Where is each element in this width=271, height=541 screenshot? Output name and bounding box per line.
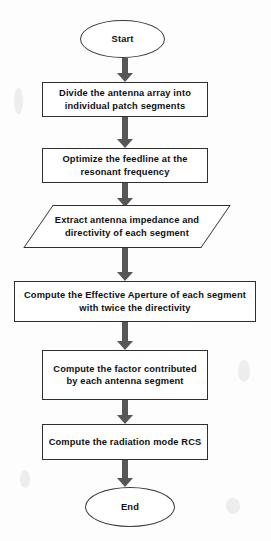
connector-arrowhead <box>117 478 133 487</box>
connector-shaft <box>122 117 128 139</box>
node-radiation-rcs[interactable]: Compute the radiation mode RCS <box>42 424 208 460</box>
scan-speck <box>14 88 23 114</box>
flowchart-canvas: Start Divide the antenna array into indi… <box>0 0 271 541</box>
connector-shaft <box>122 400 128 415</box>
node-divide-array-label: Divide the antenna array into individual… <box>43 87 207 112</box>
connector-optimize-to-extract <box>117 183 133 207</box>
connector-factor-to-rcs <box>117 400 133 424</box>
connector-shaft <box>122 322 128 341</box>
node-end[interactable]: End <box>85 487 175 527</box>
node-start[interactable]: Start <box>80 20 165 58</box>
connector-arrowhead <box>117 415 133 424</box>
connector-shaft <box>122 183 128 198</box>
connector-shaft <box>122 248 128 272</box>
node-end-label: End <box>86 501 174 513</box>
connector-start-to-divide <box>117 58 133 82</box>
connector-aperture-to-factor <box>117 322 133 350</box>
connector-arrowhead <box>117 272 133 281</box>
node-optimize-feedline[interactable]: Optimize the feedline at the resonant fr… <box>42 148 208 183</box>
connector-arrowhead <box>117 341 133 350</box>
connector-extract-to-aperture <box>117 248 133 281</box>
node-divide-array[interactable]: Divide the antenna array into individual… <box>42 82 208 117</box>
node-effective-aperture-label: Compute the Effective Aperture of each s… <box>15 289 255 314</box>
connector-arrowhead <box>117 139 133 148</box>
node-extract-impedance[interactable]: Extract antenna impedance and directivit… <box>38 205 216 248</box>
scan-speck <box>226 498 240 514</box>
connector-arrowhead <box>117 73 133 82</box>
node-optimize-feedline-label: Optimize the feedline at the resonant fr… <box>43 153 207 178</box>
node-compute-factor-label: Compute the factor contributed by each a… <box>43 363 207 388</box>
node-effective-aperture[interactable]: Compute the Effective Aperture of each s… <box>14 281 256 322</box>
connector-rcs-to-end <box>117 460 133 487</box>
node-radiation-rcs-label: Compute the radiation mode RCS <box>43 436 207 448</box>
node-compute-factor[interactable]: Compute the factor contributed by each a… <box>42 350 208 400</box>
connector-shaft <box>122 58 128 73</box>
node-extract-impedance-label: Extract antenna impedance and directivit… <box>38 214 216 239</box>
scan-speck <box>20 470 30 488</box>
connector-divide-to-optimize <box>117 117 133 148</box>
scan-speck <box>238 360 250 382</box>
connector-shaft <box>122 460 128 478</box>
node-start-label: Start <box>81 33 164 45</box>
